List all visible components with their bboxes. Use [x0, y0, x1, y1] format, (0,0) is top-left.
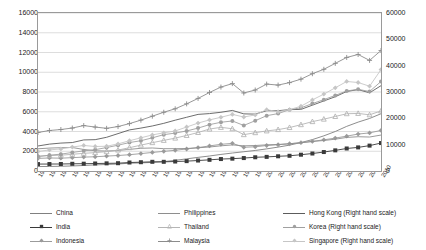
legend-item[interactable]: Indonesia	[30, 237, 158, 245]
series-marker	[196, 126, 200, 130]
series-marker	[219, 120, 223, 124]
legend-swatch-icon	[283, 209, 305, 217]
series-marker	[138, 118, 143, 123]
legend-label: China	[56, 209, 73, 217]
series-marker	[230, 112, 235, 117]
series-marker	[59, 162, 63, 166]
series-marker	[321, 67, 326, 72]
series-marker	[207, 144, 212, 149]
series-marker	[47, 162, 51, 166]
series-marker	[207, 90, 212, 95]
series-marker	[93, 125, 98, 130]
series-marker	[162, 160, 166, 164]
series-marker	[104, 154, 109, 159]
series-marker	[47, 128, 52, 133]
series-marker	[379, 128, 381, 133]
legend-item[interactable]: Philippines	[158, 209, 283, 217]
series-marker	[264, 143, 269, 148]
y-tick-right: 40000	[386, 62, 424, 70]
series-marker	[127, 121, 132, 126]
series-marker	[185, 159, 189, 163]
series-marker	[196, 96, 201, 101]
series-marker	[93, 144, 98, 149]
series-marker	[345, 89, 349, 93]
series-marker	[70, 150, 74, 154]
series-marker	[105, 161, 109, 165]
series-marker	[356, 145, 360, 149]
series-singapore	[38, 67, 381, 154]
y-tick-left: 14000	[4, 29, 38, 37]
legend-item[interactable]: China	[30, 209, 158, 217]
chart-page: 1600014000120001000080006000400020000 60…	[0, 0, 426, 250]
legend-label: Indonesia	[56, 237, 84, 245]
y-tick-left: 10000	[4, 68, 38, 76]
legend-item[interactable]: Thailand	[158, 223, 283, 231]
series-marker	[127, 161, 131, 165]
series-marker	[264, 82, 269, 87]
series-marker	[219, 157, 223, 161]
series-marker	[208, 158, 212, 162]
y-tick-left: 12000	[4, 49, 38, 57]
series-marker	[139, 160, 143, 164]
series-marker	[333, 85, 338, 90]
series-marker	[322, 98, 326, 102]
legend-label: India	[56, 223, 70, 231]
series-marker	[150, 114, 155, 119]
series-marker	[218, 85, 223, 90]
chart-canvas: 1600014000120001000080006000400020000 60…	[0, 0, 426, 205]
series-marker	[82, 149, 86, 153]
series-marker	[161, 149, 166, 154]
series-marker	[253, 119, 257, 123]
series-marker	[333, 61, 338, 66]
y-tick-right: 60000	[386, 9, 424, 17]
series-marker	[93, 154, 98, 159]
series-marker	[344, 55, 349, 60]
series-marker	[196, 159, 200, 163]
series-marker	[333, 148, 337, 152]
legend-label: Philippines	[184, 209, 215, 217]
series-plot	[38, 13, 381, 171]
series-marker	[70, 162, 74, 166]
legend-item[interactable]: Singapore (Right hand scale)	[283, 237, 420, 245]
series-marker	[322, 150, 326, 154]
legend-item[interactable]: Malaysia	[158, 237, 283, 245]
series-marker	[230, 157, 234, 161]
y-tick-left: 6000	[4, 108, 38, 116]
legend-label: Korea (Right hand scale)	[309, 223, 381, 231]
series-marker	[47, 153, 51, 157]
series-marker	[321, 137, 326, 142]
series-line	[38, 135, 381, 151]
series-marker	[276, 83, 281, 88]
series-marker	[288, 154, 292, 158]
y-tick-left: 4000	[4, 128, 38, 136]
series-marker	[173, 106, 178, 111]
series-marker	[368, 144, 372, 148]
series-philippines	[38, 135, 381, 151]
series-marker	[81, 143, 86, 148]
series-marker	[356, 132, 361, 137]
series-marker	[58, 146, 63, 151]
legend-item[interactable]: India	[30, 223, 158, 231]
series-marker	[241, 115, 246, 120]
legend-swatch-icon	[158, 223, 180, 231]
y-tick-right: 50000	[386, 35, 424, 43]
series-marker	[93, 161, 97, 165]
series-marker	[161, 110, 166, 115]
series-marker	[265, 114, 269, 118]
series-marker	[356, 80, 361, 85]
series-marker	[379, 141, 381, 145]
y-tick-left: 8000	[4, 88, 38, 96]
series-marker	[150, 160, 154, 164]
series-marker	[230, 119, 234, 123]
y-tick-right: 30000	[386, 88, 424, 96]
legend-item[interactable]: Korea (Right hand scale)	[283, 223, 420, 231]
series-marker	[139, 151, 144, 156]
series-marker	[276, 154, 280, 158]
series-marker	[299, 153, 303, 157]
series-marker	[185, 129, 189, 133]
series-marker	[70, 126, 75, 131]
series-marker	[333, 93, 337, 97]
series-marker	[127, 152, 132, 157]
series-marker	[242, 156, 246, 160]
legend-item[interactable]: Hong Kong (Right hand scale)	[283, 209, 420, 217]
